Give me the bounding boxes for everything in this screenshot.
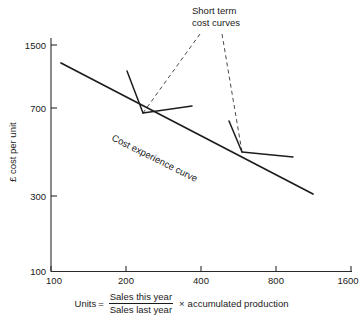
y-tick-label-300: 300 xyxy=(30,191,46,202)
cost-experience-curve-chart: 1500 700 300 100 100 200 400 800 1600 £ … xyxy=(0,0,363,329)
caption-times-symbol: × xyxy=(179,298,185,309)
short-term-label-line1: Short term xyxy=(192,5,236,16)
short-term-label-line2: cost curves xyxy=(192,17,240,28)
x-axis-tick-labels: 100 200 400 800 1600 xyxy=(46,275,359,286)
x-tick-label-800: 800 xyxy=(268,275,284,286)
short-term-curve-1-left-branch xyxy=(127,71,143,113)
x-tick-label-200: 200 xyxy=(118,275,134,286)
caption-tail-text: accumulated production xyxy=(188,298,289,309)
y-axis-title: £ cost per unit xyxy=(7,122,18,182)
short-term-curve-2-right-branch xyxy=(242,152,293,157)
x-axis-caption: Units = Sales this year Sales last year … xyxy=(0,292,363,315)
leader-line-left xyxy=(143,34,200,113)
caption-numerator: Sales this year xyxy=(109,292,173,304)
y-tick-label-100: 100 xyxy=(30,266,46,277)
caption-units-word: Units xyxy=(75,298,97,309)
y-axis-ticks xyxy=(51,45,57,196)
x-axis-ticks xyxy=(51,266,351,272)
x-tick-label-100: 100 xyxy=(46,275,62,286)
short-term-cost-curve-1 xyxy=(127,71,192,113)
caption-fraction: Sales this year Sales last year xyxy=(109,292,173,315)
caption-denominator: Sales last year xyxy=(109,304,173,315)
x-tick-label-1600: 1600 xyxy=(337,275,358,286)
annotation-leader-lines xyxy=(143,34,242,152)
axes-group xyxy=(51,38,352,272)
short-term-cost-curves-annotation: Short term cost curves xyxy=(192,5,240,28)
short-term-cost-curve-2 xyxy=(229,121,293,157)
chart-figure: 1500 700 300 100 100 200 400 800 1600 £ … xyxy=(0,0,363,329)
y-tick-label-700: 700 xyxy=(30,103,46,114)
cost-experience-curve-label: Cost experience curve xyxy=(110,132,200,184)
y-tick-label-1500: 1500 xyxy=(25,40,46,51)
caption-equals: = xyxy=(98,298,104,309)
y-axis-tick-labels: 1500 700 300 100 xyxy=(25,40,46,277)
x-tick-label-400: 400 xyxy=(193,275,209,286)
short-term-curve-2-left-branch xyxy=(229,121,242,152)
leader-line-right xyxy=(222,34,242,152)
